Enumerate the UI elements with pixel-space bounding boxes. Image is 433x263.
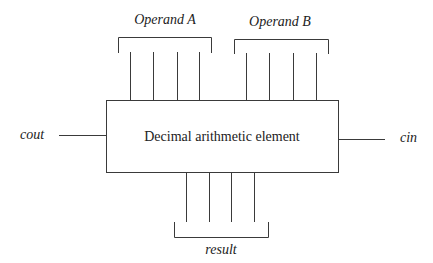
cout-label: cout (20, 127, 45, 142)
operand-b-bracket (235, 40, 329, 55)
operand-b-bus (235, 40, 329, 101)
result-bracket (175, 222, 269, 238)
block-label: Decimal arithmetic element (144, 129, 300, 144)
result-bus (175, 173, 269, 238)
operand-a-bus (119, 38, 212, 101)
operand-b-label: Operand B (249, 14, 311, 29)
operand-a-label: Operand A (134, 12, 196, 27)
result-label: result (205, 242, 237, 257)
operand-a-bracket (119, 38, 212, 54)
cin-label: cin (400, 130, 417, 145)
diagram-canvas: Decimal arithmetic element Operand A Ope… (0, 0, 433, 263)
